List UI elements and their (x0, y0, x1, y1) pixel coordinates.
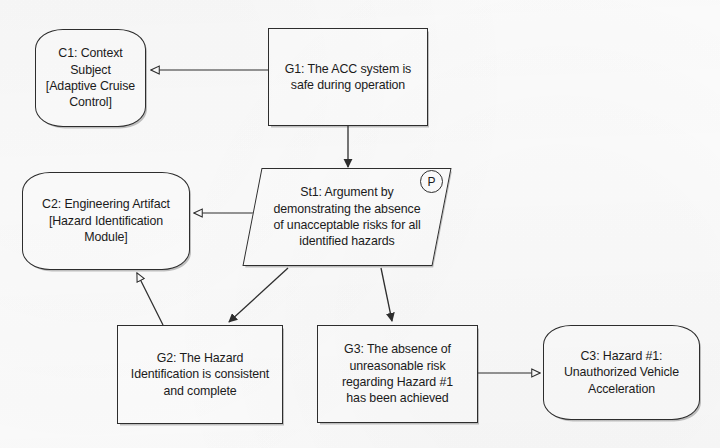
goal-node-g3-label: G3: The absence of unreasonable risk reg… (337, 341, 458, 407)
context-node-c3-label: C3: Hazard #1: Unauthorized Vehicle Acce… (559, 348, 684, 397)
context-node-c3[interactable]: C3: Hazard #1: Unauthorized Vehicle Acce… (543, 325, 700, 420)
link-st1-g3 (381, 268, 392, 321)
strategy-node-st1-label: St1: Argument by demonstrating the absen… (271, 184, 422, 250)
diagram-canvas: C1: Context Subject [Adaptive Cruise Con… (0, 0, 720, 448)
context-node-c2-label: C2: Engineering Artifact [Hazard Identif… (37, 196, 175, 245)
strategy-node-st1-textbox: St1: Argument by demonstrating the absen… (252, 168, 442, 266)
strategy-node-st1[interactable]: St1: Argument by demonstrating the absen… (252, 168, 442, 266)
goal-node-g3[interactable]: G3: The absence of unreasonable risk reg… (317, 325, 478, 423)
link-st1-g2 (229, 268, 288, 322)
goal-node-g2[interactable]: G2: The Hazard Identification is consist… (117, 325, 283, 424)
goal-node-g1-label: G1: The ACC system is safe during operat… (280, 61, 416, 94)
context-node-c2[interactable]: C2: Engineering Artifact [Hazard Identif… (22, 172, 190, 270)
context-node-c1-label: C1: Context Subject [Adaptive Cruise Con… (36, 45, 145, 111)
link-g2-c2 (137, 273, 163, 325)
pattern-badge-icon: P (420, 170, 443, 193)
pattern-badge-label: P (427, 175, 435, 189)
goal-node-g2-label: G2: The Hazard Identification is consist… (126, 350, 274, 399)
context-node-c1[interactable]: C1: Context Subject [Adaptive Cruise Con… (35, 29, 146, 127)
goal-node-g1[interactable]: G1: The ACC system is safe during operat… (268, 28, 428, 126)
